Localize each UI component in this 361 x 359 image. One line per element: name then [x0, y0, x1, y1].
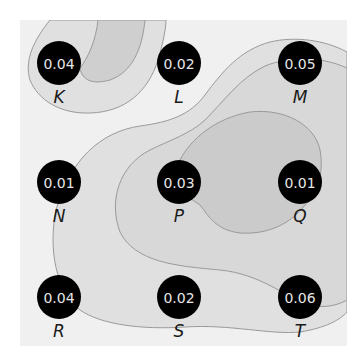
node-value: 0.03 — [163, 175, 194, 191]
node-label: N — [53, 206, 66, 226]
node-value: 0.04 — [43, 290, 74, 306]
node-value: 0.02 — [163, 56, 194, 72]
node-label: K — [53, 87, 66, 107]
node-label: M — [293, 87, 308, 107]
node-value: 0.06 — [284, 290, 315, 306]
node-label: P — [174, 206, 185, 226]
node-label: S — [174, 321, 185, 341]
node-value: 0.02 — [163, 290, 194, 306]
contour-diagram: 0.04K0.02L0.05M0.01N0.03P0.01Q0.04R0.02S… — [0, 0, 361, 359]
node-label: R — [53, 321, 65, 341]
node-value: 0.05 — [284, 56, 315, 72]
node-value: 0.04 — [43, 56, 74, 72]
node-label: L — [174, 87, 183, 107]
node-value: 0.01 — [43, 175, 74, 191]
node-label: T — [295, 321, 307, 341]
node-value: 0.01 — [284, 175, 315, 191]
node-label: Q — [293, 206, 306, 226]
